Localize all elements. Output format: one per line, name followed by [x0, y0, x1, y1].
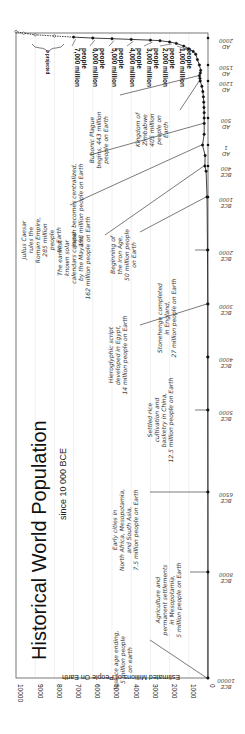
data-point	[195, 53, 197, 55]
svg-text:people: people	[98, 48, 106, 69]
svg-text:AD: AD	[222, 151, 231, 157]
svg-text:people: people	[80, 48, 88, 69]
svg-text:and South Asia,: and South Asia,	[125, 506, 132, 553]
data-point	[175, 42, 177, 44]
svg-text:1: 1	[224, 145, 228, 151]
y-tick-label: 9000	[37, 684, 44, 699]
y-tick-label: 3000	[152, 684, 159, 699]
chart-subtitle: since 10 000 BCE	[58, 448, 68, 520]
x-tick-label: 2000BCE	[219, 250, 233, 262]
milestone-label: 6,000 millionpeople	[91, 48, 106, 87]
svg-text:4,000 million: 4,000 million	[128, 48, 136, 87]
x-tick-label: 10000BCE	[217, 678, 235, 690]
svg-text:BCE: BCE	[220, 310, 232, 316]
svg-text:on Earth: on Earth	[55, 227, 62, 253]
y-axis-label: Estimated Millions of People On Earth	[62, 673, 180, 681]
data-point	[203, 106, 205, 108]
svg-text:285 million: 285 million	[41, 223, 48, 257]
x-tick-label: 6500BCE	[219, 492, 233, 504]
svg-text:500: 500	[220, 118, 231, 124]
svg-text:6500: 6500	[219, 492, 233, 498]
svg-text:14 million people on Earth: 14 million people on Earth	[121, 315, 129, 394]
svg-text:400: 400	[220, 166, 231, 172]
x-tick-label: 8000BCE	[219, 572, 233, 584]
data-point	[205, 170, 207, 172]
svg-text:7.5 million people on Earth: 7.5 million people on Earth	[132, 489, 140, 570]
svg-text:1500: 1500	[219, 65, 233, 71]
svg-text:405 million: 405 million	[148, 113, 155, 147]
svg-text:6,000 million: 6,000 million	[91, 48, 99, 87]
svg-text:BCE: BCE	[220, 203, 232, 209]
svg-text:people: people	[185, 48, 193, 69]
data-point	[203, 101, 205, 103]
annotation: Japan becomes centralized,198 million pe…	[70, 163, 85, 247]
svg-text:AD: AD	[222, 71, 231, 77]
x-tick-label: 5000BCE	[219, 410, 233, 422]
annotation: Hieroglyphic scriptdeveloped in Egypt,14…	[107, 315, 129, 394]
milestone-label: 7,000 millionpeople	[73, 48, 88, 87]
data-point	[203, 122, 205, 124]
data-point	[203, 112, 205, 114]
svg-text:on Earth: on Earth	[130, 242, 137, 268]
svg-text:people: people	[168, 48, 176, 69]
svg-text:2000: 2000	[219, 38, 233, 44]
annotation: Agriculture andpermanent settlementsin M…	[154, 562, 183, 638]
svg-text:people on Earth: people on Earth	[102, 116, 110, 165]
x-tick-label: 1500AD	[219, 65, 233, 77]
y-tick-label: 1000	[190, 684, 197, 699]
svg-text:AD: AD	[222, 124, 231, 130]
x-tick-label: 1000BCE	[219, 197, 233, 209]
svg-text:BCE: BCE	[220, 578, 232, 584]
data-point	[202, 90, 204, 92]
y-tick-label: 4000	[133, 684, 140, 699]
x-tick-label: 1AD	[222, 145, 231, 157]
svg-text:people: people	[152, 48, 160, 69]
data-point	[202, 96, 204, 98]
x-tick-label: 3000BCE	[219, 304, 233, 316]
y-tick-label: 2000	[171, 684, 178, 699]
annotation-connectors	[70, 76, 207, 678]
svg-text:AD: AD	[222, 87, 231, 93]
data-point	[15, 30, 17, 32]
y-tick-label: 8000	[56, 684, 63, 699]
svg-text:3,000 million: 3,000 million	[145, 48, 153, 87]
svg-text:2,000 million: 2,000 million	[161, 48, 169, 87]
annotation: Beginning ofthe Iron Age,50 million peop…	[109, 229, 137, 281]
svg-text:rules the: rules the	[27, 226, 34, 253]
annotation: Bubonic Plaguebegins, 443 millionpeople …	[88, 111, 110, 168]
svg-text:12.5 million people on Earth: 12.5 million people on Earth	[167, 377, 175, 462]
svg-text:7,000 million: 7,000 million	[73, 48, 81, 87]
data-point	[203, 117, 205, 119]
svg-text:10000: 10000	[217, 678, 235, 684]
chart-title: Historical World Population	[28, 420, 50, 660]
data-point	[130, 38, 132, 40]
svg-text:27 million people on Earth: 27 million people on Earth	[170, 278, 178, 357]
svg-text:198 million people on Earth: 198 million people on Earth	[77, 163, 85, 246]
svg-text:BCE: BCE	[220, 172, 232, 178]
time-axis-ticks: 10000BCE8000BCE6500BCE5000BCE4000BCE3000…	[207, 37, 235, 690]
data-point	[204, 154, 206, 156]
svg-text:1200: 1200	[219, 81, 233, 87]
svg-text:3000: 3000	[219, 304, 233, 310]
svg-text:5 million people on Earth: 5 million people on Earth	[175, 562, 183, 638]
milestone-label: 3,000 millionpeople	[145, 48, 160, 87]
data-point	[159, 40, 161, 42]
annotation: Stonehenge completedin England,27 millio…	[156, 278, 178, 357]
data-point	[149, 39, 151, 41]
data-point	[111, 38, 113, 40]
data-point	[201, 144, 203, 146]
svg-text:1000: 1000	[219, 197, 233, 203]
milestone-label: 2,000 millionpeople	[161, 48, 176, 87]
x-tick-label: 1200AD	[219, 81, 233, 93]
svg-text:BCE: BCE	[220, 498, 232, 504]
svg-text:people: people	[117, 48, 125, 69]
data-point	[200, 69, 202, 71]
svg-text:Zimbabwe: Zimbabwe	[141, 114, 148, 147]
data-point	[199, 72, 201, 74]
world-population-chart: 0100020003000400050006000700080009000100…	[0, 0, 245, 734]
x-tick-label: 500AD	[220, 118, 231, 130]
svg-text:BCE: BCE	[220, 684, 232, 690]
y-tick-label: 10000	[17, 684, 24, 702]
y-tick-label: 7000	[75, 684, 82, 699]
svg-text:BCE: BCE	[220, 416, 232, 422]
